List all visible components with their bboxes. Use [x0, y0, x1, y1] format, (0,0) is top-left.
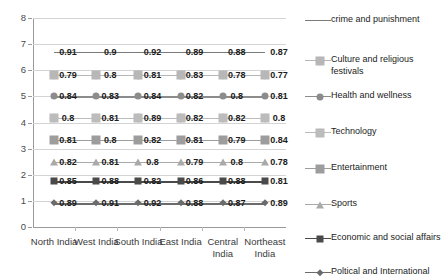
legend-label: Entertainment	[331, 162, 387, 174]
legend-label: Economic and social affairs	[331, 232, 440, 244]
diamond-marker	[50, 200, 58, 208]
data-label: 0.8	[230, 92, 243, 101]
legend-key	[305, 55, 331, 66]
data-label: 0.83	[101, 92, 119, 101]
circle-marker	[135, 93, 142, 100]
circle-marker	[219, 93, 226, 100]
cross-marker	[134, 135, 143, 144]
square-marker	[177, 178, 184, 185]
data-label: 0.92	[144, 199, 162, 208]
series-sports: 0.820.810.80.790.80.78	[33, 154, 286, 170]
data-label: 0.88	[228, 47, 246, 56]
plus-marker	[134, 114, 143, 123]
x-tick-label: Northeast India	[239, 236, 291, 259]
y-tick-mark	[28, 18, 32, 19]
triangle-marker	[261, 158, 269, 165]
square-marker	[261, 178, 268, 185]
legend-key	[305, 15, 331, 26]
x-tick-mark	[117, 227, 118, 231]
data-label: 0.89	[59, 199, 77, 208]
data-label: 0.82	[186, 92, 204, 101]
data-label: 0.77	[270, 70, 288, 79]
y-tick-mark	[28, 175, 32, 176]
data-label: 0.87	[228, 199, 246, 208]
legend-key-line	[305, 20, 331, 21]
y-tick-label: 7	[0, 39, 26, 48]
data-label: 0.82	[144, 135, 162, 144]
data-label: 0.78	[228, 70, 246, 79]
y-tick-label: 5	[0, 91, 26, 100]
plus-marker	[92, 70, 101, 79]
plus-marker	[134, 70, 143, 79]
triangle-marker	[177, 158, 185, 165]
series-technology: 0.80.810.890.820.820.8	[33, 110, 286, 126]
data-label: 0.8	[104, 135, 117, 144]
legend-label: crime and punishment	[331, 14, 420, 26]
data-label: 0.88	[101, 177, 119, 186]
plus-marker	[176, 114, 185, 123]
data-label: 0.83	[186, 70, 204, 79]
data-label: 0.78	[270, 157, 288, 166]
square-marker	[317, 235, 324, 242]
legend-item-culture-and-religious-festivals[interactable]: Culture and religious festivals	[305, 54, 446, 77]
series-poltical-and-international: 0.890.910.920.880.870.89	[33, 195, 286, 211]
legend-key	[305, 199, 331, 210]
data-label: 0.79	[228, 135, 246, 144]
cross-marker	[92, 135, 101, 144]
series-economic-and-social-affairs: 0.850.880.820.860.880.81	[33, 173, 286, 189]
legend-item-entertainment[interactable]: Entertainment	[305, 162, 387, 174]
data-label: 0.89	[186, 47, 204, 56]
legend-item-economic-and-social-affairs[interactable]: Economic and social affairs	[305, 232, 440, 244]
legend-item-crime-and-punishment[interactable]: crime and punishment	[305, 14, 420, 26]
y-tick-label: 6	[0, 65, 26, 74]
legend-item-sports[interactable]: Sports	[305, 198, 357, 210]
plus-marker	[92, 114, 101, 123]
circle-marker	[51, 93, 58, 100]
data-label: 0.89	[270, 199, 288, 208]
data-label: 0.9	[104, 47, 117, 56]
legend-key	[305, 127, 331, 138]
series-health-and-wellness: 0.840.830.840.820.80.81	[33, 88, 286, 104]
legend-label: Health and wellness	[331, 90, 412, 102]
plus-marker	[316, 56, 325, 65]
data-label: 0.82	[59, 157, 77, 166]
legend-item-health-and-wellness[interactable]: Health and wellness	[305, 90, 412, 102]
data-label: 0.85	[59, 177, 77, 186]
triangle-marker	[50, 158, 58, 165]
x-tick-mark	[160, 227, 161, 231]
y-tick-label: 0	[0, 222, 26, 231]
circle-marker	[177, 93, 184, 100]
legend-key	[305, 91, 331, 102]
y-tick-mark	[28, 44, 32, 45]
diamond-marker	[177, 200, 185, 208]
plot-area: 0.910.90.920.890.880.870.790.80.810.830.…	[33, 18, 286, 227]
cross-marker	[218, 135, 227, 144]
legend-item-technology[interactable]: Technology	[305, 126, 377, 138]
plus-marker	[260, 70, 269, 79]
data-label: 0.8	[104, 70, 117, 79]
y-tick-label: 1	[0, 196, 26, 205]
square-marker	[93, 178, 100, 185]
circle-marker	[93, 93, 100, 100]
cross-marker	[176, 135, 185, 144]
data-label: 0.89	[144, 114, 162, 123]
data-label: 0.82	[186, 114, 204, 123]
legend-item-poltical-and-international[interactable]: Poltical and International	[305, 266, 430, 278]
plus-marker	[218, 114, 227, 123]
square-marker	[51, 178, 58, 185]
data-label: 0.81	[101, 157, 119, 166]
plus-marker	[176, 70, 185, 79]
series-entertainment: 0.810.80.820.810.790.84	[33, 132, 286, 148]
x-tick-mark	[202, 227, 203, 231]
y-tick-mark	[28, 149, 32, 150]
triangle-marker	[92, 158, 100, 165]
series-crime-and-punishment: 0.910.90.920.890.880.87	[33, 44, 286, 60]
data-label: 0.88	[228, 177, 246, 186]
plus-marker	[50, 114, 59, 123]
data-label: 0.81	[270, 177, 288, 186]
plus-marker	[316, 128, 325, 137]
x-tick-mark	[75, 227, 76, 231]
y-tick-label: 8	[0, 13, 26, 22]
data-label: 0.79	[186, 157, 204, 166]
data-label: 0.81	[59, 135, 77, 144]
